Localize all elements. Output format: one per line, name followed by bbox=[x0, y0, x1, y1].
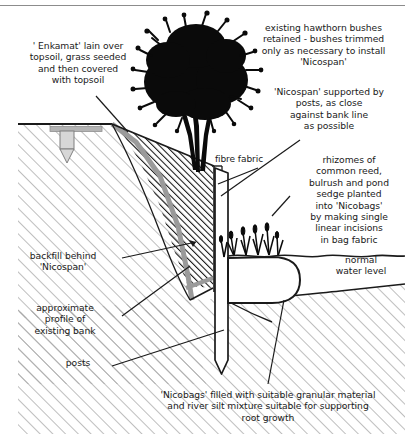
label-fibre-fabric: fibre fabric bbox=[200, 154, 278, 165]
label-approximate-profile: approximate profile of existing bank bbox=[14, 302, 116, 336]
label-nicospan-posts: 'Nicospan' supported by posts, as close … bbox=[258, 86, 400, 132]
label-posts: posts bbox=[50, 357, 106, 368]
planted-reed-tufts bbox=[219, 223, 283, 257]
label-nicobags: 'Nicobags' filled with suitable granular… bbox=[132, 389, 404, 423]
label-normal-water-level: normal water level bbox=[320, 254, 402, 277]
label-backfill: backfill behind 'Nicospan' bbox=[10, 250, 116, 273]
label-hawthorn-bushes: existing hawthorn bushes retained - bush… bbox=[246, 22, 401, 68]
label-enkamat: ' Enkamat' lain over topsoil, grass seed… bbox=[8, 40, 148, 86]
diagram-page: ' Enkamat' lain over topsoil, grass seed… bbox=[0, 0, 405, 434]
label-rhizomes: rhizomes of common reed, bulrush and pon… bbox=[296, 154, 402, 245]
timber-post bbox=[215, 168, 228, 374]
